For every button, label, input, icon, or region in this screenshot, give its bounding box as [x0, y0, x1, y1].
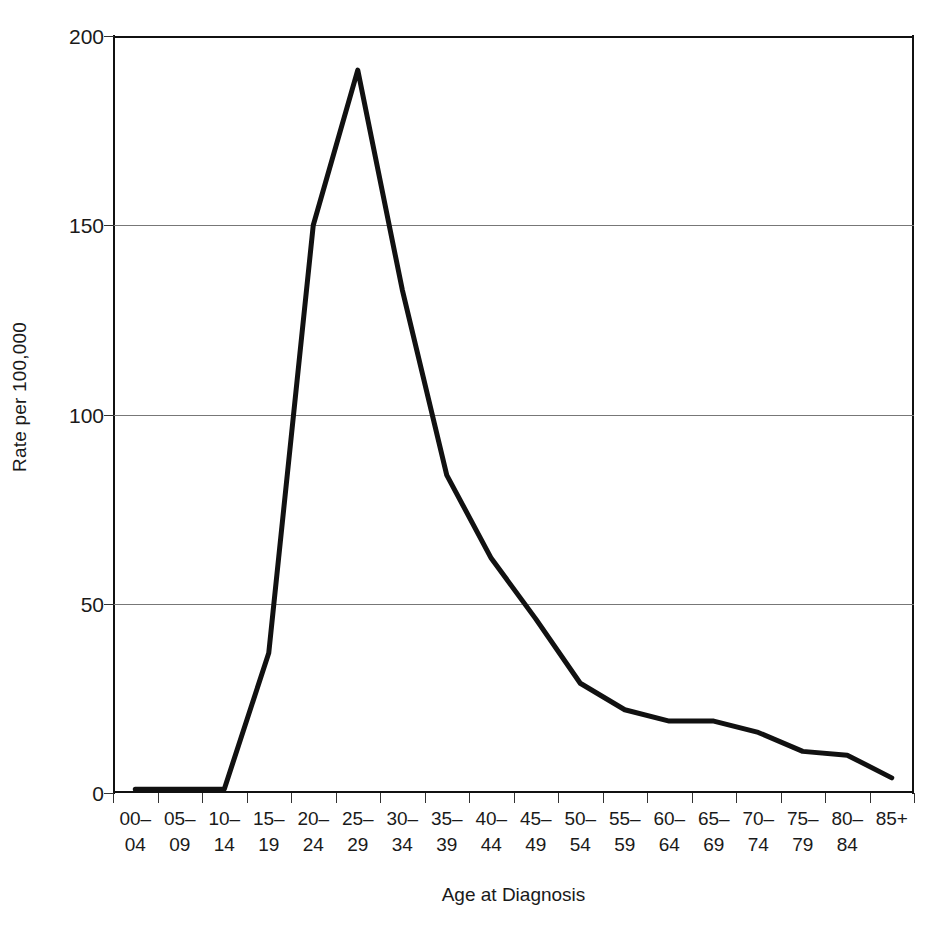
x-tick-label-line2: 04 — [119, 832, 151, 858]
x-tick-mark — [247, 793, 248, 803]
y-tick-label: 200 — [42, 26, 104, 47]
x-tick-label: 55–59 — [609, 806, 641, 858]
x-tick-label-line2: 39 — [431, 832, 463, 858]
x-tick-label-line1: 00– — [119, 806, 151, 832]
x-tick-label-line1: 70– — [742, 806, 774, 832]
x-tick-label-line1: 85+ — [876, 806, 908, 832]
x-tick-mark — [781, 793, 782, 803]
x-tick-label: 30–34 — [386, 806, 418, 858]
x-tick-label-line1: 80– — [831, 806, 863, 832]
x-axis-tick-labels: 00–0405–0910–1415–1920–2425–2930–3435–39… — [113, 806, 914, 870]
plot-area — [113, 36, 914, 793]
x-tick-label-line2: 14 — [208, 832, 240, 858]
x-tick-label: 60–64 — [653, 806, 685, 858]
x-tick-label: 40–44 — [475, 806, 507, 858]
x-tick-label-line2: 59 — [609, 832, 641, 858]
x-tick-label-line2: 74 — [742, 832, 774, 858]
data-series-line — [113, 36, 914, 793]
x-tick-label: 50–54 — [564, 806, 596, 858]
x-tick-label-line2: 19 — [253, 832, 285, 858]
x-tick-label-line1: 60– — [653, 806, 685, 832]
x-tick-label: 65–69 — [698, 806, 730, 858]
x-tick-mark — [158, 793, 159, 803]
x-tick-label-line1: 25– — [342, 806, 374, 832]
x-tick-label: 80–84 — [831, 806, 863, 858]
x-tick-label-line1: 10– — [208, 806, 240, 832]
x-tick-label: 10–14 — [208, 806, 240, 858]
x-tick-label-line1: 45– — [520, 806, 552, 832]
x-tick-label-line2: 44 — [475, 832, 507, 858]
x-tick-mark — [336, 793, 337, 803]
x-tick-mark — [469, 793, 470, 803]
y-tick-label: 50 — [42, 593, 104, 614]
x-tick-label-line1: 05– — [164, 806, 196, 832]
x-tick-label: 20–24 — [297, 806, 329, 858]
y-tick-label: 0 — [42, 783, 104, 804]
x-tick-label-line2: 79 — [787, 832, 819, 858]
x-tick-mark — [736, 793, 737, 803]
x-tick-label-line2: 64 — [653, 832, 685, 858]
x-tick-label: 00–04 — [119, 806, 151, 858]
x-tick-label-line1: 40– — [475, 806, 507, 832]
x-tick-label-line1: 75– — [787, 806, 819, 832]
x-tick-label: 05–09 — [164, 806, 196, 858]
x-tick-label-line1: 15– — [253, 806, 285, 832]
x-tick-label-line1: 65– — [698, 806, 730, 832]
x-tick-label: 15–19 — [253, 806, 285, 858]
x-tick-mark — [380, 793, 381, 803]
x-tick-label: 25–29 — [342, 806, 374, 858]
x-tick-label-line2: 09 — [164, 832, 196, 858]
x-axis-title: Age at Diagnosis — [113, 884, 914, 906]
x-tick-mark — [603, 793, 604, 803]
y-axis-title: Rate per 100,000 — [0, 0, 40, 793]
y-tick-label: 100 — [42, 404, 104, 425]
x-tick-label: 45–49 — [520, 806, 552, 858]
x-tick-mark — [514, 793, 515, 803]
x-tick-mark — [202, 793, 203, 803]
x-tick-mark — [692, 793, 693, 803]
x-tick-label-line2: 69 — [698, 832, 730, 858]
x-tick-label-line2: 49 — [520, 832, 552, 858]
x-tick-label-line1: 55– — [609, 806, 641, 832]
x-tick-mark — [870, 793, 871, 803]
x-tick-mark — [558, 793, 559, 803]
x-tick-label-line2: 84 — [831, 832, 863, 858]
x-tick-mark — [647, 793, 648, 803]
x-tick-label-line1: 35– — [431, 806, 463, 832]
x-tick-label: 35–39 — [431, 806, 463, 858]
x-tick-label-line1: 30– — [386, 806, 418, 832]
y-axis-tick-labels: 050100150200 — [36, 0, 104, 931]
x-tick-label-line1: 50– — [564, 806, 596, 832]
x-tick-mark — [825, 793, 826, 803]
y-tick-label: 150 — [42, 215, 104, 236]
x-tick-label: 70–74 — [742, 806, 774, 858]
x-tick-label: 75–79 — [787, 806, 819, 858]
x-tick-label-line2: 29 — [342, 832, 374, 858]
x-tick-label: 85+ — [876, 806, 908, 832]
x-tick-mark — [291, 793, 292, 803]
rate-line — [135, 70, 892, 789]
x-tick-label-line2: 54 — [564, 832, 596, 858]
x-tick-mark — [914, 793, 915, 803]
x-tick-mark — [425, 793, 426, 803]
x-tick-label-line2: 24 — [297, 832, 329, 858]
y-axis-title-text: Rate per 100,000 — [9, 321, 31, 471]
x-tick-label-line2: 34 — [386, 832, 418, 858]
chart-figure: Rate per 100,000 050100150200 00–0405–09… — [0, 0, 939, 931]
x-tick-label-line1: 20– — [297, 806, 329, 832]
x-tick-mark — [113, 793, 114, 803]
